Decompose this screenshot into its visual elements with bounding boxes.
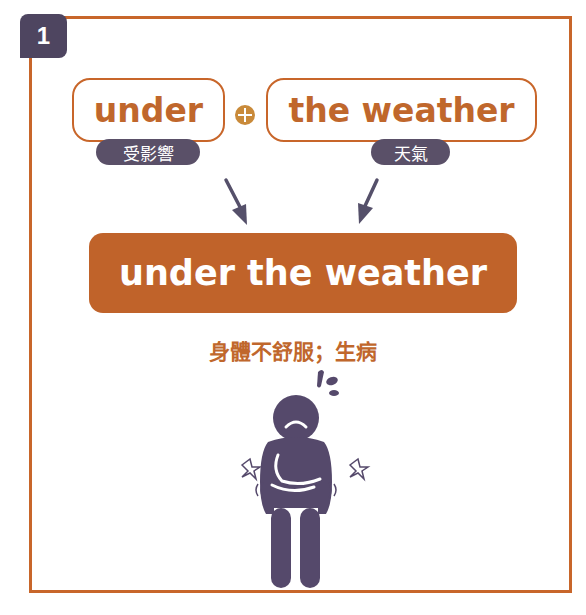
idiom-banner: under the weather: [89, 233, 517, 313]
sick-person-icon: [200, 360, 400, 590]
arrow-down-left-icon: [358, 180, 377, 224]
arrow-down-right-icon: [226, 180, 247, 225]
